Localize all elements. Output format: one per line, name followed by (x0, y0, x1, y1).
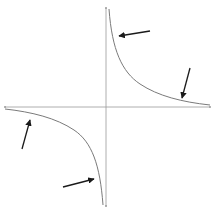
x-axis-left-end (4, 106, 6, 108)
hyperbola-branch-quadrant-3 (5, 109, 103, 205)
arrow-icon (119, 31, 150, 36)
hyperbola-branch-quadrant-1 (109, 9, 210, 105)
arrow-icon (63, 179, 94, 187)
y-axis-top-end (105, 7, 107, 9)
diagram-svg (0, 0, 216, 211)
y-axis-bottom-end (105, 205, 107, 207)
x-axis-right-end (209, 106, 211, 108)
arrow-icon (22, 120, 30, 149)
hyperbola-diagram (0, 0, 216, 211)
arrow-icon (182, 68, 190, 98)
